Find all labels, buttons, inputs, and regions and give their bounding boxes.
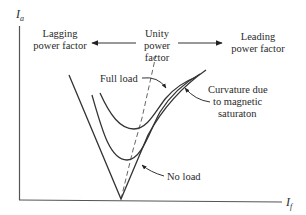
no-load-leader-arrow	[142, 165, 164, 176]
lagging-label-line1: Lagging	[43, 28, 79, 39]
unity-label-line2: power	[144, 40, 171, 51]
lagging-label-line2: power factor	[33, 40, 87, 51]
v-curve-diagram: Ia If Lagging power factor Unity power f…	[0, 0, 306, 215]
y-axis-label: Ia	[15, 7, 24, 23]
full-load-leader-arrow	[142, 78, 166, 88]
unity-label-line3: factor	[145, 52, 170, 63]
curvature-label-line2: to magnetic	[213, 96, 263, 107]
leading-label-line2: power factor	[231, 43, 285, 54]
full-load-curve	[100, 77, 196, 129]
leading-label-line1: Leading	[241, 31, 276, 42]
curvature-label-line1: Curvature due	[208, 84, 268, 95]
x-axis-label: If	[285, 195, 294, 211]
unity-label-line1: Unity	[145, 28, 170, 39]
curvature-leader-arrow	[185, 88, 210, 102]
full-load-label: Full load	[100, 73, 138, 84]
x-axis	[19, 200, 282, 202]
no-load-label: No load	[167, 171, 201, 182]
intermediate-load-curve	[92, 74, 200, 160]
curvature-label-line3: saturaton	[218, 108, 257, 119]
